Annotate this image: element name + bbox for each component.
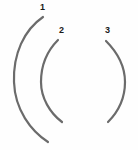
figure-background (0, 0, 138, 150)
arc-label-1: 1 (40, 3, 45, 12)
arc-canvas (0, 0, 138, 150)
arc-label-2: 2 (59, 26, 64, 35)
arc-figure: 1 2 3 (0, 0, 138, 150)
arc-label-3: 3 (105, 26, 110, 35)
